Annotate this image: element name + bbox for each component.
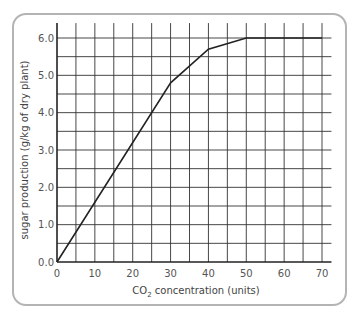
x-axis-label: CO2 concentration (units)	[132, 285, 259, 299]
y-tick-label: 4.0	[38, 107, 54, 118]
y-axis-label: sugar production (g/kg of dry plant)	[19, 60, 30, 239]
grid-lines	[57, 23, 331, 262]
y-tick-label: 1.0	[38, 219, 54, 230]
y-tick-label: 6.0	[38, 33, 54, 44]
x-tick-label: 60	[278, 268, 291, 279]
x-tick-label: 70	[316, 268, 329, 279]
x-tick-label: 0	[54, 268, 60, 279]
y-tick-label: 2.0	[38, 182, 54, 193]
line-chart: 010203040506070 0.01.02.03.04.05.06.0 su…	[0, 0, 362, 319]
x-tick-label: 40	[202, 268, 215, 279]
x-tick-label: 10	[88, 268, 101, 279]
y-tick-label: 5.0	[38, 70, 54, 81]
y-tick-label: 0.0	[38, 257, 54, 268]
x-tick-label: 20	[126, 268, 139, 279]
y-tick-labels: 0.01.02.03.04.05.06.0	[38, 33, 54, 268]
x-axis-label-main: CO	[132, 285, 147, 296]
x-tick-labels: 010203040506070	[54, 268, 329, 279]
y-tick-label: 3.0	[38, 145, 54, 156]
x-axis-label-rest: concentration (units)	[152, 285, 260, 296]
x-tick-label: 50	[240, 268, 253, 279]
x-tick-label: 30	[164, 268, 177, 279]
axes	[57, 23, 331, 262]
